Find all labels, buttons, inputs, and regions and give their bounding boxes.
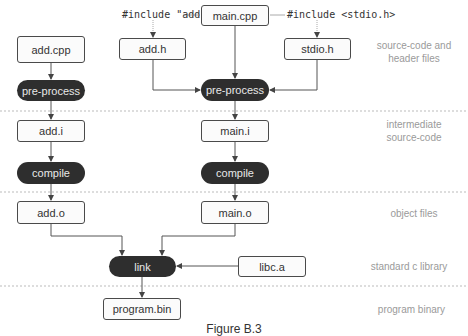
stage-label-library: standard c library: [350, 260, 468, 273]
stage-label-source: source-code and header files: [360, 39, 468, 65]
compile-left-node: compile: [17, 162, 85, 184]
add-o-node: add.o: [17, 201, 85, 224]
stage-label-line: object files: [360, 207, 468, 220]
preprocess-left-node: pre-process: [17, 80, 85, 101]
stage-label-object: object files: [360, 207, 468, 220]
stage-label-intermediate: intermediate source-code: [360, 118, 468, 144]
figure-caption: Figure B.3: [0, 322, 468, 336]
preprocess-mid-node: pre-process: [201, 79, 269, 101]
stage-label-line: header files: [360, 52, 468, 65]
stage-label-line: source-code: [360, 131, 468, 144]
main-o-node: main.o: [201, 201, 269, 224]
link-node: link: [109, 256, 176, 277]
stdio-h-node: stdio.h: [284, 38, 351, 60]
stage-label-line: source-code and: [360, 39, 468, 52]
program-bin-node: program.bin: [103, 298, 181, 320]
main-cpp-node: main.cpp: [201, 5, 269, 26]
stage-label-line: standard c library: [350, 260, 468, 273]
add-h-node: add.h: [119, 38, 186, 60]
stage-label-binary: program binary: [355, 303, 468, 316]
add-cpp-node: add.cpp: [17, 36, 85, 63]
libc-a-node: libc.a: [238, 256, 306, 277]
add-i-node: add.i: [17, 120, 85, 142]
stage-label-line: program binary: [355, 303, 468, 316]
compile-mid-node: compile: [201, 162, 269, 184]
main-i-node: main.i: [201, 120, 269, 142]
stage-label-line: intermediate: [360, 118, 468, 131]
include-stdio-h-text: #include <stdio.h>: [287, 9, 395, 20]
